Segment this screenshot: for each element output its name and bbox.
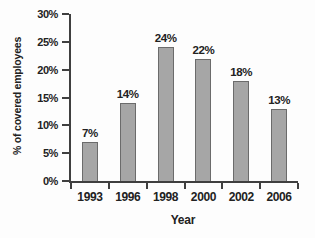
bar (195, 59, 211, 181)
y-axis-tick (62, 97, 69, 99)
y-tick-label: 5% (43, 147, 58, 159)
y-tick-label: 25% (37, 36, 58, 48)
x-axis-tick (108, 183, 110, 189)
bar-chart: % of covered employees 0%5%10%15%20%25%3… (0, 0, 315, 238)
bar-value-label: 18% (230, 66, 252, 78)
x-tick-label: 1998 (153, 190, 178, 204)
y-tick-label: 30% (37, 8, 58, 20)
y-tick-label: 10% (37, 119, 58, 131)
y-axis-title: % of covered employees (11, 37, 23, 155)
y-tick-label: 0% (43, 175, 58, 187)
bar (233, 81, 249, 181)
x-axis-tick (146, 183, 148, 189)
bar-value-label: 13% (268, 94, 290, 106)
y-axis-tick (62, 13, 69, 15)
bar (120, 103, 136, 181)
y-tick-label: 15% (37, 92, 58, 104)
x-axis-tick (184, 183, 186, 189)
x-tick-label: 1993 (77, 190, 102, 204)
x-tick-label: 1996 (115, 190, 140, 204)
x-axis-title: Year (171, 213, 196, 227)
x-tick-label: 2006 (267, 190, 292, 204)
y-tick-label: 20% (37, 64, 58, 76)
bar-value-label: 22% (192, 44, 214, 56)
x-tick-label: 2000 (191, 190, 216, 204)
y-axis-tick (62, 124, 69, 126)
bar-value-label: 24% (155, 32, 177, 44)
plot-area: 0%5%10%15%20%25%30%7%199314%199624%19982… (69, 14, 298, 183)
bar (271, 109, 287, 181)
y-axis-tick (62, 69, 69, 71)
x-axis-tick (221, 183, 223, 189)
x-tick-label: 2002 (229, 190, 254, 204)
bar (158, 47, 174, 181)
bar (82, 142, 98, 181)
y-axis-tick (62, 180, 69, 182)
bar-value-label: 14% (117, 88, 139, 100)
x-axis-tick (70, 183, 72, 189)
y-axis-tick (62, 41, 69, 43)
bar-value-label: 7% (82, 127, 98, 139)
x-axis-tick (259, 183, 261, 189)
x-axis-tick (297, 183, 299, 189)
y-axis-tick (62, 152, 69, 154)
